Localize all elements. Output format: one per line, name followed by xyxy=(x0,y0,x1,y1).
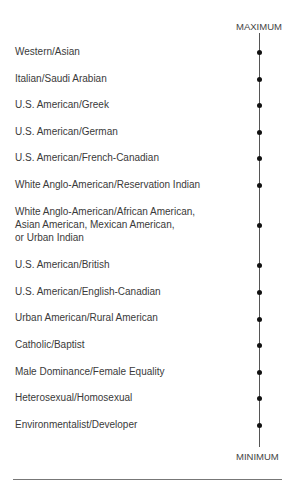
continuum-point-icon xyxy=(257,396,262,401)
continuum-item-label: Heterosexual/Homosexual xyxy=(15,391,132,404)
continuum-item-label: U.S. American/Greek xyxy=(15,98,109,111)
continuum-point-icon xyxy=(257,223,262,228)
continuum-point-icon xyxy=(257,317,262,322)
continuum-item-label: U.S. American/British xyxy=(15,258,109,271)
continuum-point-icon xyxy=(257,183,262,188)
continuum-item-label: U.S. American/German xyxy=(15,125,118,138)
continuum-point-icon xyxy=(257,103,262,108)
continuum-point-icon xyxy=(257,370,262,375)
continuum-item-label: White Anglo-American/Reservation Indian xyxy=(15,178,200,191)
continuum-point-icon xyxy=(257,263,262,268)
continuum-point-icon xyxy=(257,290,262,295)
continuum-item-label: Western/Asian xyxy=(15,45,80,58)
minimum-label: MINIMUM xyxy=(236,451,279,462)
maximum-label: MAXIMUM xyxy=(236,21,282,32)
continuum-axis xyxy=(259,33,260,447)
continuum-point-icon xyxy=(257,423,262,428)
continuum-item-label: Male Dominance/Female Equality xyxy=(15,365,165,378)
continuum-item-label: U.S. American/English-Canadian xyxy=(15,285,161,298)
continuum-item-label: Italian/Saudi Arabian xyxy=(15,72,107,85)
bottom-rule xyxy=(13,479,282,480)
continuum-item-label: White Anglo-American/African American, A… xyxy=(15,205,195,244)
continuum-point-icon xyxy=(257,130,262,135)
continuum-point-icon xyxy=(257,343,262,348)
continuum-item-label: U.S. American/French-Canadian xyxy=(15,151,159,164)
continuum-point-icon xyxy=(257,77,262,82)
continuum-point-icon xyxy=(257,156,262,161)
continuum-item-label: Urban American/Rural American xyxy=(15,311,158,324)
continuum-item-label: Environmentalist/Developer xyxy=(15,418,137,431)
continuum-item-label: Catholic/Baptist xyxy=(15,338,84,351)
continuum-point-icon xyxy=(257,50,262,55)
